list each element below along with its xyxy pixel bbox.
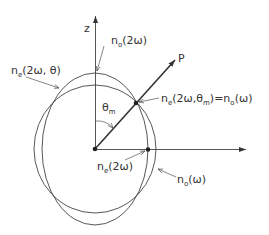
theta-arc [96,121,114,128]
theta-m-label: θm [102,101,116,116]
leader-no-w [158,169,176,177]
leader-match [139,98,159,102]
index-diagram: z P θm no(2ω) ne(2ω, θ) ne(2ω,θm)=no(ω) … [0,0,269,235]
leader-no-2w [97,46,104,71]
label-ne-2w: ne(2ω) [97,160,133,175]
leader-ne-2w [125,151,145,160]
label-no-w: no(ω) [177,173,206,188]
label-ne-2w-theta: ne(2ω, θ) [11,64,61,79]
label-phase-match: ne(2ω,θm)=no(ω) [161,92,252,107]
label-no-2w: no(2ω) [111,34,147,49]
origin-dot [93,147,98,152]
z-axis-label: z [84,22,90,35]
leader-ne-2w-theta [26,77,59,88]
ne-2w-dot [146,147,151,152]
intersection-dot [134,101,139,106]
p-vector-label: P [178,52,185,65]
